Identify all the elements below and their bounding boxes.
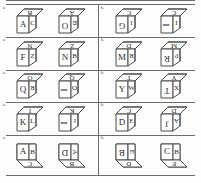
- svg-text:R: R: [164, 53, 170, 63]
- svg-text:D: D: [127, 160, 132, 168]
- item-5b[interactable]: b. BED CBE: [98, 135, 201, 175]
- cube[interactable]: JAD: [155, 104, 193, 134]
- item-5a[interactable]: a. ABC DAB: [0, 135, 98, 175]
- item-1b[interactable]: b. GIC IIC: [98, 5, 201, 37]
- svg-text:I: I: [161, 24, 171, 27]
- cube[interactable]: DEC: [110, 104, 148, 134]
- svg-text:d: d: [175, 51, 179, 59]
- svg-text:I: I: [59, 121, 69, 124]
- svg-text:N: N: [27, 41, 32, 49]
- item-label: a.: [3, 71, 6, 75]
- item-4b[interactable]: b. DEC JAD: [98, 102, 201, 135]
- svg-text:B: B: [174, 148, 179, 156]
- cube[interactable]: BED: [110, 139, 148, 171]
- svg-text:O: O: [61, 21, 68, 31]
- svg-text:D: D: [119, 117, 126, 127]
- svg-text:Q: Q: [20, 84, 27, 94]
- cube[interactable]: FZN: [11, 39, 49, 69]
- svg-text:O: O: [27, 74, 32, 82]
- cube[interactable]: OBA: [53, 6, 91, 36]
- cube[interactable]: QRO: [11, 71, 49, 101]
- cube[interactable]: IIC: [155, 6, 193, 36]
- cube[interactable]: ACB: [11, 6, 49, 36]
- svg-text:C: C: [164, 146, 170, 156]
- svg-text:T: T: [126, 74, 131, 82]
- svg-text:G: G: [119, 21, 126, 31]
- svg-text:O: O: [72, 84, 77, 92]
- svg-text:R: R: [129, 52, 134, 60]
- svg-text:Z: Z: [70, 41, 74, 49]
- cube[interactable]: RdM: [155, 39, 193, 69]
- cube[interactable]: NBZ: [53, 39, 91, 69]
- svg-text:M: M: [170, 41, 177, 49]
- svg-text:A: A: [174, 117, 179, 125]
- cube[interactable]: KLI: [11, 104, 49, 134]
- svg-text:C: C: [27, 160, 32, 168]
- svg-text:B: B: [69, 160, 74, 168]
- svg-text:C: C: [127, 9, 132, 17]
- cube[interactable]: MRD: [110, 39, 148, 69]
- cube[interactable]: ABC: [11, 139, 49, 171]
- svg-text:K: K: [69, 106, 74, 114]
- svg-text:F: F: [20, 52, 25, 62]
- item-label: b.: [101, 6, 104, 10]
- item-label: a.: [3, 136, 6, 140]
- cube[interactable]: IJK: [53, 104, 91, 134]
- svg-text:A: A: [20, 19, 27, 29]
- svg-text:Y: Y: [119, 84, 126, 94]
- cube[interactable]: CBE: [155, 139, 193, 171]
- item-3b[interactable]: b. YWT TXY: [98, 70, 201, 102]
- cube[interactable]: GIC: [110, 6, 148, 36]
- worksheet-page: a. ACB OBA b. GIC IIC a. FZN NBZ b. MRD …: [0, 0, 201, 183]
- item-3a[interactable]: a. QRO IOQ: [0, 70, 98, 102]
- item-4a[interactable]: a. KLI IJK: [0, 102, 98, 135]
- svg-text:A: A: [20, 146, 27, 156]
- svg-text:E: E: [172, 160, 176, 168]
- svg-text:Y: Y: [171, 74, 176, 82]
- svg-text:E: E: [128, 150, 136, 154]
- svg-text:B: B: [27, 9, 32, 17]
- svg-text:J: J: [165, 118, 169, 128]
- svg-text:I: I: [59, 89, 69, 92]
- item-2a[interactable]: a. FZN NBZ: [0, 37, 98, 70]
- svg-text:C: C: [171, 9, 176, 17]
- svg-text:D: D: [171, 106, 176, 114]
- svg-text:D: D: [127, 41, 132, 49]
- item-label: b.: [101, 103, 104, 107]
- svg-text:J: J: [73, 116, 76, 124]
- svg-text:C: C: [127, 106, 132, 114]
- item-label: a.: [3, 103, 6, 107]
- svg-text:L: L: [30, 116, 34, 124]
- svg-text:T: T: [164, 86, 170, 96]
- svg-text:B: B: [72, 51, 77, 59]
- item-2b[interactable]: b. MRD RdM: [98, 37, 201, 70]
- svg-text:B: B: [119, 148, 125, 158]
- svg-text:X: X: [174, 84, 179, 92]
- svg-text:M: M: [118, 52, 126, 62]
- svg-text:D: D: [61, 148, 68, 158]
- svg-text:Z: Z: [30, 51, 34, 59]
- item-1a[interactable]: a. ACB OBA: [0, 5, 98, 37]
- svg-text:W: W: [128, 84, 135, 92]
- cube[interactable]: YWT: [110, 71, 148, 101]
- item-label: a.: [3, 6, 6, 10]
- svg-text:C: C: [30, 19, 35, 27]
- svg-text:B: B: [30, 148, 35, 156]
- cube[interactable]: DAB: [53, 139, 91, 171]
- svg-text:A: A: [69, 9, 74, 17]
- cube[interactable]: TXY: [155, 71, 193, 101]
- svg-text:A: A: [71, 149, 79, 154]
- svg-text:E: E: [130, 116, 134, 124]
- svg-text:Q: Q: [69, 74, 74, 82]
- item-label: b.: [101, 71, 104, 75]
- item-label: b.: [101, 38, 104, 42]
- svg-text:K: K: [20, 117, 27, 127]
- svg-text:R: R: [30, 84, 35, 92]
- cube[interactable]: IOQ: [53, 71, 91, 101]
- svg-text:N: N: [62, 52, 69, 62]
- item-label: a.: [3, 38, 6, 42]
- grid-bottom-gap: [0, 175, 201, 183]
- item-grid: a. ACB OBA b. GIC IIC a. FZN NBZ b. MRD …: [0, 0, 201, 183]
- item-label: b.: [101, 136, 104, 140]
- svg-text:B: B: [71, 21, 79, 26]
